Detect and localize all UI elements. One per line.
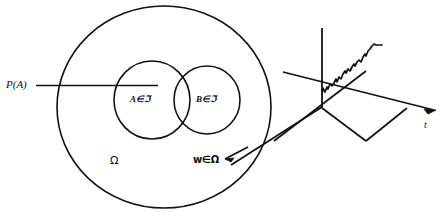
base-plane-edge-left <box>322 108 366 141</box>
stochastic-sample-path <box>322 44 382 93</box>
event-a-circle <box>114 61 190 139</box>
base-plane-edge-right <box>366 108 407 141</box>
event-a-label: A∈ℑ <box>130 95 151 104</box>
sample-point-arrow-head <box>225 158 234 162</box>
time-axis-label: t <box>424 120 427 130</box>
figure-canvas <box>0 0 441 221</box>
probability-measure-label: P(A) <box>6 79 27 90</box>
sample-space-label: Ω <box>110 155 118 166</box>
time-axis-arrow-head <box>424 109 436 114</box>
sample-point-label: w∈Ω <box>193 155 219 165</box>
probability-space-figure: P(A) A∈ℑ B∈ℑ Ω w∈Ω t <box>0 0 441 221</box>
event-b-label: B∈ℑ <box>196 95 217 104</box>
